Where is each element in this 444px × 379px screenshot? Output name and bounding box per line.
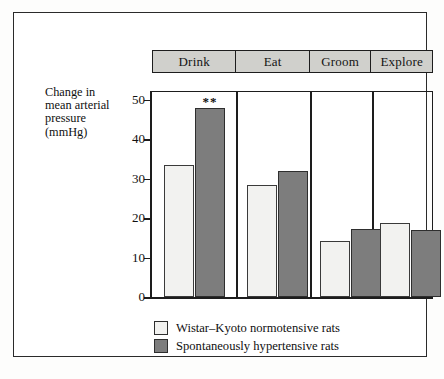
x-axis-baseline [150, 297, 433, 299]
legend-swatch-light [154, 321, 168, 335]
legend-label: Spontaneously hypertensive rats [176, 339, 339, 354]
legend-item: Spontaneously hypertensive rats [154, 337, 340, 355]
y-tick-label: 30 [132, 171, 145, 187]
bar-eat-normotensive [247, 185, 277, 297]
significance-marker: ** [203, 95, 218, 108]
header-cell-explore: Explore [371, 51, 432, 72]
bar-eat-hypertensive [278, 171, 308, 297]
bar-explore-hypertensive [411, 230, 441, 297]
bar-drink-normotensive [164, 165, 194, 297]
y-tick-label: 20 [132, 210, 145, 226]
chart-frame: DrinkEatGroomExplore Change inmean arter… [13, 12, 427, 357]
category-header-bar: DrinkEatGroomExplore [152, 50, 433, 73]
y-tick-label: 0 [139, 289, 146, 305]
bar-groom-normotensive [320, 241, 350, 297]
bar-groom-hypertensive [351, 229, 381, 297]
y-axis-title: Change inmean arterialpressure(mmHg) [45, 86, 137, 139]
bar-explore-normotensive [380, 223, 410, 297]
group-separator [236, 92, 238, 298]
y-tick-label: 40 [132, 131, 145, 147]
y-tick-label: 50 [132, 92, 145, 108]
legend-swatch-dark [154, 339, 168, 353]
y-axis-title-line: (mmHg) [45, 126, 137, 139]
legend: Wistar–Kyoto normotensive ratsSpontaneou… [154, 319, 340, 355]
legend-label: Wistar–Kyoto normotensive rats [176, 321, 340, 336]
header-cell-groom: Groom [310, 51, 372, 72]
header-cell-eat: Eat [236, 51, 309, 72]
header-cell-drink: Drink [153, 51, 236, 72]
legend-item: Wistar–Kyoto normotensive rats [154, 319, 340, 337]
y-tick-label: 10 [132, 250, 145, 266]
figure-bar-chart: DrinkEatGroomExplore Change inmean arter… [0, 0, 444, 379]
group-separator [310, 92, 312, 298]
plot-area: ** [152, 91, 433, 297]
bar-drink-hypertensive [195, 108, 225, 297]
y-axis-title-line: pressure [45, 112, 137, 125]
